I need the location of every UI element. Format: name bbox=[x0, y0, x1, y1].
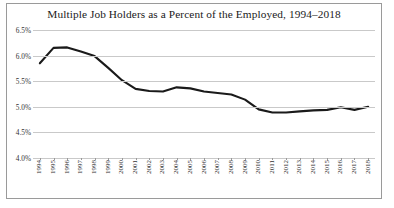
x-axis-tick-label: 2008 bbox=[228, 160, 235, 174]
x-axis-tick-label: 2012 bbox=[283, 160, 290, 174]
x-axis-tick-label: 2015 bbox=[324, 160, 331, 174]
y-axis-tick-label: 4.5% bbox=[0, 128, 31, 137]
gridline bbox=[33, 132, 375, 133]
gridline bbox=[33, 30, 375, 31]
x-axis-labels: 1994199519961997199819992000200120022003… bbox=[33, 160, 375, 198]
x-axis-tick-label: 2013 bbox=[296, 160, 303, 174]
gridline bbox=[33, 56, 375, 57]
x-axis-tick-label: 1995 bbox=[50, 160, 57, 174]
y-axis-tick-label: 5.0% bbox=[0, 102, 31, 111]
data-series-line bbox=[33, 30, 375, 158]
y-axis-labels: 6.5%6.0%5.5%5.0%4.5%4.0% bbox=[0, 30, 31, 158]
x-axis-tick-label: 2011 bbox=[269, 160, 276, 174]
x-axis-tick-label: 1994 bbox=[36, 160, 43, 174]
x-axis-tick-label: 2017 bbox=[351, 160, 358, 174]
chart-title: Multiple Job Holders as a Percent of the… bbox=[6, 8, 382, 20]
chart-figure: Multiple Job Holders as a Percent of the… bbox=[0, 0, 394, 208]
x-axis-tick-label: 2009 bbox=[242, 160, 249, 174]
x-axis-tick-label: 2006 bbox=[201, 160, 208, 174]
x-axis-tick-label: 1999 bbox=[105, 160, 112, 174]
gridline bbox=[33, 81, 375, 82]
x-axis-tick-label: 2005 bbox=[187, 160, 194, 174]
x-axis-tick-label: 2018 bbox=[365, 160, 372, 174]
gridline bbox=[33, 107, 375, 108]
y-axis-tick-label: 6.5% bbox=[0, 26, 31, 35]
y-axis-tick-label: 4.0% bbox=[0, 154, 31, 163]
y-axis-tick-label: 6.0% bbox=[0, 51, 31, 60]
x-axis-tick-label: 2010 bbox=[255, 160, 262, 174]
plot-area bbox=[33, 30, 375, 158]
x-axis-tick-label: 1998 bbox=[91, 160, 98, 174]
x-axis-tick-label: 2014 bbox=[310, 160, 317, 174]
x-axis-tick-label: 2000 bbox=[118, 160, 125, 174]
x-axis-tick-label: 1997 bbox=[77, 160, 84, 174]
x-axis-tick-label: 2004 bbox=[173, 160, 180, 174]
x-axis-tick-label: 2007 bbox=[214, 160, 221, 174]
x-axis-tick-label: 2001 bbox=[132, 160, 139, 174]
x-axis-tick-label: 2002 bbox=[146, 160, 153, 174]
x-axis-tick-label: 2016 bbox=[337, 160, 344, 174]
x-axis-tick-label: 2003 bbox=[159, 160, 166, 174]
y-axis-tick-label: 5.5% bbox=[0, 77, 31, 86]
x-axis-tick-label: 1996 bbox=[64, 160, 71, 174]
